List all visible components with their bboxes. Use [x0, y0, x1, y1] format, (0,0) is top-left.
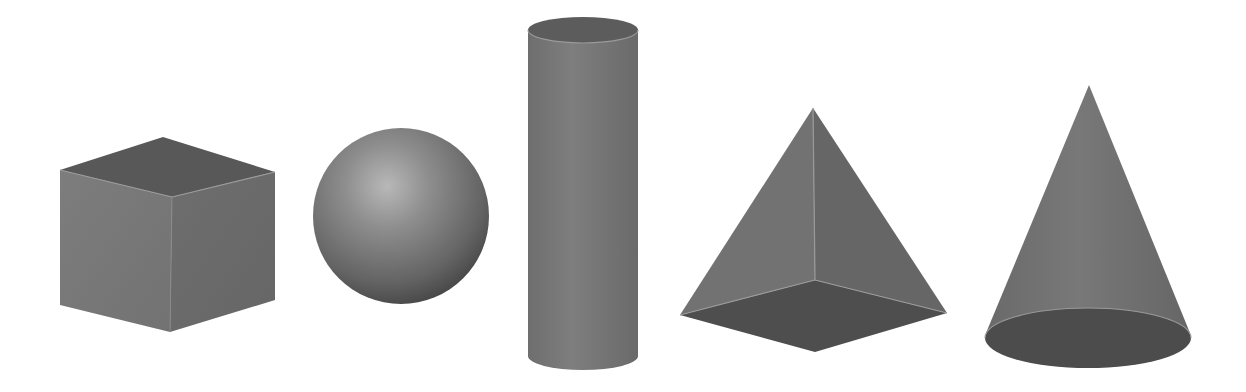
- cylinder-body: [528, 30, 638, 370]
- sphere: [313, 128, 489, 304]
- sphere-body: [313, 128, 489, 304]
- cylinder: [528, 17, 638, 370]
- pyramid: [680, 108, 947, 352]
- cube: [60, 137, 275, 332]
- solids-drawing: [0, 0, 1246, 392]
- cube-left-face: [60, 170, 172, 332]
- geometric-solids-figure: [0, 0, 1246, 392]
- pyramid-left-face: [680, 108, 815, 315]
- pyramid-right-face: [813, 108, 947, 313]
- cube-right-face: [170, 172, 275, 332]
- cone: [985, 85, 1191, 368]
- cone-lateral-surface: [986, 85, 1190, 333]
